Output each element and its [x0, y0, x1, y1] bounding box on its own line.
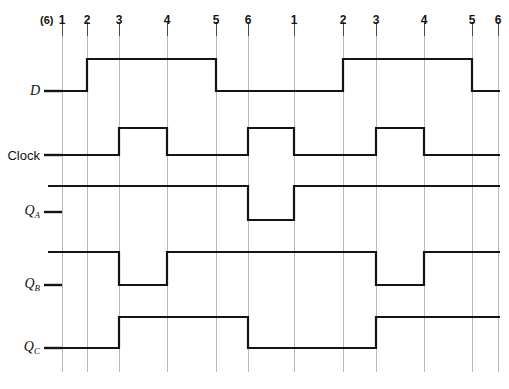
waveform-clock	[62, 128, 500, 155]
waveform-qc	[48, 317, 500, 348]
tick-label-8: 3	[373, 14, 380, 26]
tick-label-0: 1	[59, 14, 66, 26]
signal-label-subscript: A	[35, 210, 41, 220]
timing-diagram-figure: 123456123456(6) DClockQAQBQC	[0, 0, 509, 389]
signal-label-subscript: B	[35, 283, 41, 293]
tick-label-5: 6	[245, 14, 252, 26]
signal-label-d: D	[30, 84, 40, 98]
signal-label-qb: QB	[24, 277, 40, 294]
waveform-qb	[48, 252, 500, 285]
tick-label-7: 2	[340, 14, 347, 26]
waveforms-group	[48, 59, 500, 348]
tick-label-3: 4	[164, 14, 171, 26]
tick-prefix-label: (6)	[40, 15, 53, 26]
signal-label-qc: QC	[24, 340, 40, 357]
tick-stubs-group	[63, 22, 499, 36]
tick-label-9: 4	[421, 14, 428, 26]
tick-label-11: 6	[495, 14, 502, 26]
signal-label-text: Q	[24, 339, 34, 354]
signal-leads-group	[44, 91, 62, 348]
waveform-d	[62, 59, 500, 91]
signal-label-clock: Clock	[7, 149, 40, 162]
waveform-qa	[48, 186, 500, 220]
tick-label-6: 1	[291, 14, 298, 26]
timing-diagram-canvas	[0, 0, 509, 389]
tick-label-2: 3	[116, 14, 123, 26]
signal-label-text: Clock	[7, 148, 40, 163]
tick-label-1: 2	[84, 14, 91, 26]
signal-label-text: Q	[24, 276, 34, 291]
signal-label-qa: QA	[24, 204, 40, 221]
signal-label-subscript: C	[34, 346, 40, 356]
signal-label-text: Q	[24, 203, 34, 218]
tick-label-10: 5	[469, 14, 476, 26]
signal-label-text: D	[30, 83, 40, 98]
grid-lines-group	[63, 22, 499, 372]
tick-label-4: 5	[213, 14, 220, 26]
